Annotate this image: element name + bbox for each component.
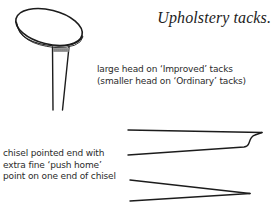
chisel-label-line: chisel pointed end with [3, 148, 116, 160]
chisel-label: chisel pointed end with extra fine ‘push… [3, 148, 116, 183]
tack-icon [12, 2, 86, 110]
tack-head-label: large head on ‘Improved’ tacks (smaller … [97, 64, 246, 87]
tack-head-label-line: (smaller head on ‘Ordinary’ tacks) [97, 76, 246, 88]
chisel-profile-icon [128, 130, 262, 155]
chisel-label-line: extra fine ‘push home’ [3, 160, 116, 172]
tack-head-label-line: large head on ‘Improved’ tacks [97, 64, 246, 76]
chisel-point-icon [130, 180, 250, 201]
diagram-title: Upholstery tacks. [157, 9, 271, 27]
chisel-label-line: point on one end of chisel [3, 171, 116, 183]
diagram-canvas: Upholstery tacks. large head on ‘Improve… [0, 0, 274, 213]
